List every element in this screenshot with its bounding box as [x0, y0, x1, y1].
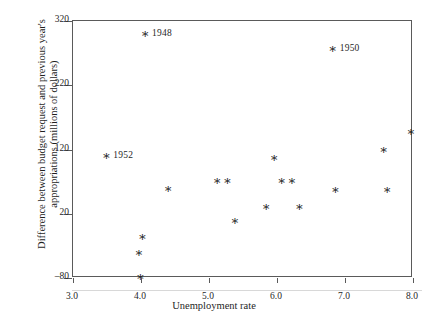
- data-point-label-1948: 1948: [152, 28, 172, 38]
- data-point: [287, 176, 296, 185]
- data-point: [277, 176, 286, 185]
- y-axis-tick-label: 320: [55, 14, 69, 24]
- data-point: [406, 127, 415, 136]
- y-axis-tick-label: 120: [55, 143, 69, 153]
- data-point-label-1950: 1950: [340, 43, 360, 53]
- data-point: [138, 232, 147, 241]
- y-axis-label: Difference between budget request and pr…: [36, 4, 60, 264]
- x-axis-tick-mark: [209, 278, 210, 283]
- y-axis-tick-label: –80: [55, 271, 69, 281]
- x-axis-tick-label: 8.0: [406, 291, 418, 301]
- data-point: [383, 185, 392, 194]
- x-axis-tick-mark: [73, 278, 74, 283]
- data-point: [223, 176, 232, 185]
- x-axis-tick-mark: [345, 278, 346, 283]
- data-point: [213, 176, 222, 185]
- data-point: [164, 184, 173, 193]
- y-axis-tick-label: 20: [60, 207, 70, 217]
- data-point: [379, 145, 388, 154]
- data-point: [331, 185, 340, 194]
- data-point: [134, 248, 143, 257]
- x-axis-label: Unemployment rate: [0, 300, 428, 311]
- x-axis-line: [72, 290, 422, 291]
- x-axis-tick-label: 5.0: [202, 291, 214, 301]
- plot-frame: 194819501952 32022012020–80: [72, 20, 412, 277]
- data-point: [230, 216, 239, 225]
- x-axis-tick-label: 6.0: [270, 291, 282, 301]
- scatter-plot-figure: Difference between budget request and pr…: [0, 0, 428, 325]
- data-point: [141, 29, 150, 38]
- y-axis-label-host: Difference between budget request and pr…: [22, 18, 56, 280]
- data-point: [102, 151, 111, 160]
- x-axis-tick-mark: [277, 278, 278, 283]
- y-axis-tick-label: 220: [55, 78, 69, 88]
- data-point: [270, 153, 279, 162]
- data-point: [295, 202, 304, 211]
- x-axis-tick-mark: [413, 278, 414, 283]
- x-axis-tick-label: 7.0: [338, 291, 350, 301]
- data-point: [262, 202, 271, 211]
- x-axis-tick-mark: [141, 278, 142, 283]
- data-point-label-1952: 1952: [113, 150, 133, 160]
- data-point: [328, 44, 337, 53]
- x-axis-tick-label: 4.0: [134, 291, 146, 301]
- plot-area: 194819501952: [73, 21, 411, 276]
- x-axis-tick-label: 3.0: [66, 291, 78, 301]
